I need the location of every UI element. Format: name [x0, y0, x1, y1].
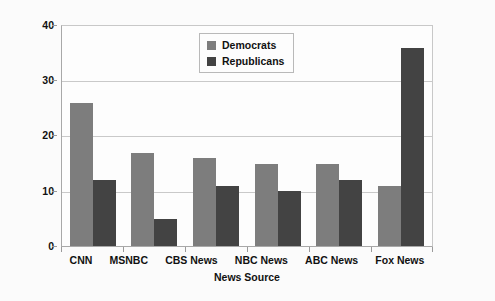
y-axis-ticks: 40 30 20 10 0: [20, 0, 54, 301]
x-tick-mark-4: [309, 247, 310, 252]
legend-swatch-republicans: [207, 57, 216, 66]
y-tick-mark-40: [52, 25, 57, 26]
bar-cbs-news-democrats: [193, 158, 216, 246]
y-tick-label-0: 0: [28, 241, 54, 252]
x-axis-title: News Source: [61, 271, 433, 283]
y-tick-label-40: 40: [28, 20, 54, 31]
legend-entry-democrats: Democrats: [207, 39, 284, 51]
x-tick-mark-5: [371, 247, 372, 252]
bar-chart-figure: Percent Who Watch Regularly 40 30 20 10 …: [0, 0, 495, 301]
x-tick-mark-0: [61, 247, 62, 252]
bar-cnn-republicans: [93, 180, 116, 246]
x-axis-tick-labels: CNN MSNBC CBS News NBC News ABC News Fox…: [61, 254, 433, 266]
x-tick-mark-3: [247, 247, 248, 252]
legend-entry-republicans: Republicans: [207, 55, 284, 67]
x-tick-label-abc-news: ABC News: [305, 254, 358, 266]
bar-nbc-news-democrats: [255, 164, 278, 247]
x-tick-label-cbs-news: CBS News: [165, 254, 218, 266]
bar-group-msnbc: [131, 26, 177, 246]
y-tick-mark-20: [52, 135, 57, 136]
legend-label-democrats: Democrats: [222, 39, 276, 51]
x-tick-mark-1: [123, 247, 124, 252]
y-tick-label-30: 30: [28, 75, 54, 86]
bar-cnn-democrats: [70, 103, 93, 246]
bar-nbc-news-republicans: [278, 191, 301, 246]
bar-msnbc-democrats: [131, 153, 154, 247]
x-axis-ticks: [61, 247, 433, 253]
y-tick-mark-10: [52, 191, 57, 192]
x-tick-label-cnn: CNN: [70, 254, 93, 266]
bar-group-abc-news: [316, 26, 362, 246]
chart-legend: Democrats Republicans: [199, 33, 294, 73]
bar-fox-news-democrats: [378, 186, 401, 247]
y-tick-mark-0: [52, 246, 57, 247]
bar-fox-news-republicans: [401, 48, 424, 246]
x-tick-mark-6: [432, 247, 433, 252]
legend-label-republicans: Republicans: [222, 55, 284, 67]
y-tick-label-20: 20: [28, 130, 54, 141]
x-tick-label-nbc-news: NBC News: [235, 254, 288, 266]
y-tick-label-10: 10: [28, 186, 54, 197]
bar-msnbc-republicans: [154, 219, 177, 247]
bar-abc-news-republicans: [339, 180, 362, 246]
legend-swatch-democrats: [207, 41, 216, 50]
bar-group-fox-news: [378, 26, 424, 246]
bar-cbs-news-republicans: [216, 186, 239, 247]
x-tick-label-fox-news: Fox News: [375, 254, 424, 266]
x-tick-mark-2: [185, 247, 186, 252]
bar-group-cnn: [70, 26, 116, 246]
x-tick-label-msnbc: MSNBC: [109, 254, 148, 266]
bar-abc-news-democrats: [316, 164, 339, 247]
y-tick-mark-30: [52, 80, 57, 81]
